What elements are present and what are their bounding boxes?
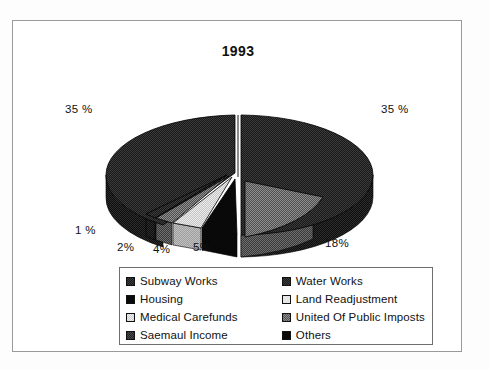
legend-item-others[interactable]: Others <box>282 326 426 344</box>
legend-label-housing: Housing <box>140 293 183 305</box>
pie-label-right-35: 35 % <box>381 103 408 115</box>
pie-label-left-35: 35 % <box>65 103 92 115</box>
chart-frame: 1993 <box>12 20 462 352</box>
legend-swatch-water-works <box>282 277 291 286</box>
legend-swatch-saemaul-income <box>126 331 135 340</box>
legend-item-united-of-public-imposts[interactable]: United Of Public Imposts <box>282 308 426 326</box>
legend-item-subway-works[interactable]: Subway Works <box>126 272 282 290</box>
legend-swatch-land-readjustment <box>282 295 291 304</box>
legend-label-united-of-public-imposts: United Of Public Imposts <box>296 311 425 323</box>
pie-chart-stage: 35 % 35 % 18% 5% 4% 2% 1 % Subway Works … <box>13 21 463 353</box>
legend-swatch-housing <box>126 295 135 304</box>
legend-row: Medical Carefunds United Of Public Impos… <box>126 308 426 326</box>
legend-label-saemaul-income: Saemaul Income <box>140 329 228 341</box>
legend-row: Saemaul Income Others <box>126 326 426 344</box>
legend-item-medical-carefunds[interactable]: Medical Carefunds <box>126 308 282 326</box>
legend-label-others: Others <box>296 329 331 341</box>
legend-label-land-readjustment: Land Readjustment <box>296 293 397 305</box>
pie-label-5: 5% <box>193 241 210 253</box>
chart-page: 1993 <box>0 0 489 369</box>
legend-item-water-works[interactable]: Water Works <box>282 272 426 290</box>
legend-swatch-united-of-public-imposts <box>282 313 291 322</box>
legend-swatch-subway-works <box>126 277 135 286</box>
pie-label-18: 18% <box>325 237 349 249</box>
legend-label-medical-carefunds: Medical Carefunds <box>140 311 238 323</box>
pie-label-4: 4% <box>153 243 170 255</box>
legend-swatch-others <box>282 331 291 340</box>
legend-item-land-readjustment[interactable]: Land Readjustment <box>282 290 426 308</box>
legend-item-housing[interactable]: Housing <box>126 290 282 308</box>
pie-label-1: 1 % <box>75 224 96 236</box>
pie-label-2: 2% <box>117 241 134 253</box>
legend-row: Housing Land Readjustment <box>126 290 426 308</box>
legend-swatch-medical-carefunds <box>126 313 135 322</box>
legend-label-water-works: Water Works <box>296 275 363 287</box>
legend-row: Subway Works Water Works <box>126 272 426 290</box>
legend-label-subway-works: Subway Works <box>140 275 218 287</box>
chart-legend: Subway Works Water Works Housing Land Re <box>119 267 433 345</box>
legend-item-saemaul-income[interactable]: Saemaul Income <box>126 326 282 344</box>
